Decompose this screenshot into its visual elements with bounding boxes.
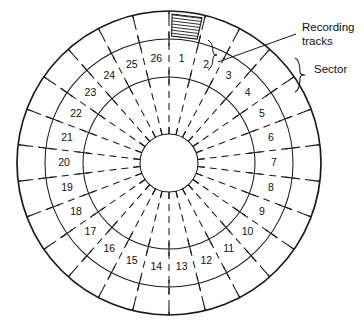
sector-label: Sector (314, 63, 347, 75)
recording-tracks-label-line1: Recording (302, 21, 354, 33)
sector-tick-22-ring-0 (135, 150, 142, 152)
sector-number-6: 6 (268, 131, 274, 143)
sector-number-2: 2 (203, 58, 209, 70)
sector-tick-16-ring-1 (126, 233, 133, 245)
sector-tick-20-ring-3 (18, 180, 26, 181)
sector-tick-24-ring-3 (68, 49, 73, 55)
sector-tick-10-ring-3 (288, 245, 295, 250)
sector-number-21: 21 (61, 131, 73, 143)
sector-number-4: 4 (245, 86, 251, 98)
sector-tick-12-ring-1 (206, 233, 213, 245)
sector-tick-25-ring-1 (126, 81, 133, 93)
sector-tick-9-ring-1 (243, 191, 256, 196)
sector-tick-22-ring-2 (47, 117, 60, 122)
sector-number-11: 11 (223, 242, 234, 254)
sector-tick-6-ring-1 (243, 130, 256, 135)
sector-tick-4-ring-3 (264, 49, 269, 55)
sector-tick-19-ring-3 (27, 214, 34, 217)
sector-number-23: 23 (85, 86, 97, 98)
sector-tick-17-ring-3 (68, 271, 73, 277)
sector-tick-20-ring-0 (133, 166, 140, 167)
sector-tick-21-ring-3 (18, 145, 26, 146)
sector-tick-13-ring-3 (203, 303, 205, 311)
sector-tick-5-ring-0 (193, 143, 199, 147)
sector-number-24: 24 (104, 69, 116, 81)
sector-tick-22-ring-1 (82, 130, 95, 135)
sector-tick-18-ring-1 (92, 208, 104, 216)
sector-tick-12-ring-2 (223, 267, 230, 279)
sector-tick-13-ring-0 (176, 191, 178, 198)
sector-number-10: 10 (242, 225, 254, 237)
sector-tick-12-ring-0 (182, 189, 185, 195)
sector-number-25: 25 (126, 58, 138, 70)
sector-tick-9-ring-2 (278, 204, 291, 209)
disk-diagram-figure: 1234567891011121314151617181920212223242… (0, 0, 364, 329)
sector-tick-16-ring-3 (98, 291, 102, 298)
sector-tick-2-ring-3 (203, 15, 205, 23)
sector-tick-6-ring-0 (196, 150, 203, 152)
sector-tick-8-ring-3 (312, 180, 320, 181)
sector-tick-23-ring-2 (61, 89, 73, 97)
sector-tick-8-ring-0 (198, 166, 205, 167)
sector-tick-9-ring-3 (304, 214, 311, 217)
sector-tick-23-ring-0 (139, 143, 145, 147)
sector-tick-6-ring-3 (304, 109, 311, 112)
sector-tick-5-ring-3 (288, 77, 295, 82)
sector-tick-25-ring-3 (98, 28, 102, 35)
sector-tick-19-ring-0 (135, 173, 142, 175)
sector-tick-19-ring-1 (82, 191, 95, 196)
sector-tick-18-ring-2 (61, 229, 73, 237)
sector-tick-16-ring-2 (108, 267, 115, 279)
sector-tick-23-ring-1 (92, 110, 104, 118)
sector-tick-2-ring-0 (176, 128, 178, 135)
hub-circle (140, 134, 198, 192)
sector-tick-17-ring-0 (145, 185, 150, 190)
sector-tick-24-ring-0 (145, 136, 150, 141)
sector-tick-6-ring-2 (278, 117, 291, 122)
sector-number-14: 14 (150, 260, 162, 272)
sector-number-17: 17 (85, 225, 97, 237)
recording-tracks-hatch-patch (169, 14, 205, 40)
sector-number-16: 16 (104, 242, 116, 254)
sector-tick-3-ring-1 (206, 81, 213, 93)
sector-tick-26-ring-3 (133, 15, 135, 23)
sector-tick-5-ring-2 (265, 89, 277, 97)
sector-number-9: 9 (259, 205, 265, 217)
sector-tick-4-ring-0 (188, 136, 193, 141)
sector-tick-22-ring-3 (27, 109, 34, 112)
track-circle-1 (83, 77, 255, 249)
sector-tick-3-ring-0 (182, 131, 185, 137)
sector-tick-15-ring-3 (133, 303, 135, 311)
sector-tick-3-ring-3 (236, 28, 240, 35)
sector-tick-16-ring-0 (152, 189, 155, 195)
sector-number-1: 1 (179, 52, 185, 64)
sector-tick-12-ring-3 (236, 291, 240, 298)
recording-tracks-label-line2: tracks (302, 35, 333, 47)
sector-tick-11-ring-3 (264, 271, 269, 277)
sector-number-19: 19 (61, 181, 73, 193)
sector-tick-18-ring-0 (139, 179, 145, 183)
sector-tick-7-ring-0 (198, 159, 205, 160)
sector-number-8: 8 (268, 181, 274, 193)
sector-tick-3-ring-2 (223, 47, 230, 59)
sector-tick-19-ring-2 (47, 204, 60, 209)
sector-number-5: 5 (259, 107, 265, 119)
sector-number-12: 12 (200, 254, 212, 266)
sector-tick-21-ring-0 (133, 159, 140, 160)
sector-tick-7-ring-3 (312, 145, 320, 146)
sector-tick-5-ring-1 (234, 110, 246, 118)
sector-number-13: 13 (176, 260, 188, 272)
sector-tick-25-ring-2 (108, 47, 115, 59)
sector-number-20: 20 (58, 156, 70, 168)
sector-tick-23-ring-3 (44, 77, 51, 82)
sector-number-18: 18 (70, 205, 82, 217)
sector-number-7: 7 (271, 156, 277, 168)
track-width-brace-icon (208, 40, 217, 70)
sector-number-3: 3 (226, 69, 232, 81)
sector-tick-10-ring-1 (234, 208, 246, 216)
sector-number-26: 26 (150, 52, 162, 64)
disk-diagram-svg: 1234567891011121314151617181920212223242… (0, 0, 364, 329)
sector-tick-18-ring-3 (44, 245, 51, 250)
sector-tick-9-ring-0 (196, 173, 203, 175)
sector-tick-10-ring-2 (265, 229, 277, 237)
